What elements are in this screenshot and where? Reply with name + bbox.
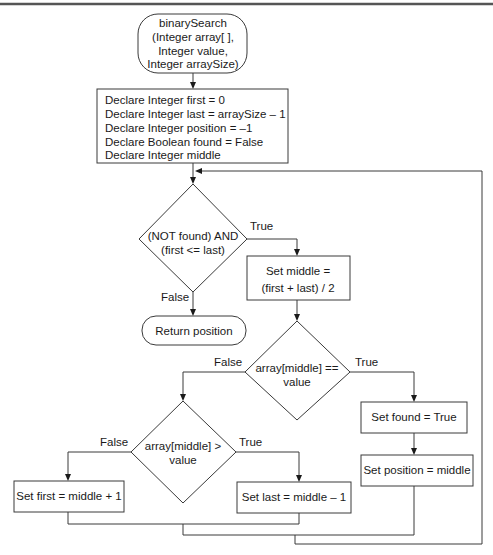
- set-found-box: Set found = True: [361, 402, 467, 433]
- connector-middle-equal: [294, 300, 300, 321]
- equal-check-decision: array[middle] == value: [245, 321, 350, 420]
- equal-false-label: False: [214, 356, 242, 368]
- set-last-label: Set last = middle – 1: [242, 491, 347, 503]
- arrowhead-icon: [190, 177, 196, 184]
- connector-greater-true: [236, 452, 302, 482]
- loop-condition-decision: (NOT found) AND (first <= last): [139, 184, 247, 292]
- connector-greater-false: [65, 452, 131, 481]
- arrowhead-icon: [296, 475, 302, 482]
- connector-start-declare: [190, 73, 196, 89]
- equal-check-line-2: value: [283, 376, 311, 388]
- return-label: Return position: [155, 325, 232, 337]
- return-terminal: Return position: [142, 316, 246, 345]
- connector-loop-true: [247, 239, 300, 256]
- arrowhead-icon: [411, 448, 417, 455]
- set-middle-box: Set middle = (first + last) / 2: [247, 256, 350, 300]
- arrowhead-icon: [294, 314, 300, 321]
- greater-false-label: False: [100, 436, 128, 448]
- loop-condition-line-1: (NOT found) AND: [148, 230, 239, 242]
- declare-line-5: Declare Integer middle: [105, 149, 221, 161]
- arrowhead-icon: [294, 249, 300, 256]
- set-middle-line-2: (first + last) / 2: [261, 282, 334, 294]
- arrowhead-icon: [411, 395, 417, 402]
- declare-line-1: Declare Integer first = 0: [105, 94, 225, 106]
- loop-false-label: False: [161, 291, 189, 303]
- set-position-label: Set position = middle: [363, 464, 470, 476]
- connector-equal-true: [350, 372, 417, 402]
- flowchart-canvas: binarySearch (Integer array[ ], Integer …: [0, 0, 493, 555]
- start-line-3: Integer value,: [158, 45, 228, 57]
- connector-equal-false: [180, 372, 245, 401]
- start-line-4: Integer arraySize): [147, 58, 239, 70]
- connector-loop-false: [190, 292, 196, 316]
- set-first-label: Set first = middle + 1: [16, 490, 121, 502]
- start-line-2: (Integer array[ ],: [152, 31, 234, 43]
- arrowhead-icon: [65, 474, 71, 481]
- greater-true-label: True: [239, 436, 262, 448]
- arrowhead-icon: [180, 394, 186, 401]
- set-first-box: Set first = middle + 1: [14, 481, 124, 512]
- equal-check-line-1: array[middle] ==: [255, 362, 338, 374]
- declare-line-4: Declare Boolean found = False: [105, 136, 263, 148]
- greater-check-line-2: value: [169, 454, 197, 466]
- declare-line-2: Declare Integer last = arraySize – 1: [105, 108, 286, 120]
- loop-true-label: True: [250, 220, 273, 232]
- set-middle-line-1: Set middle =: [266, 265, 331, 277]
- arrowhead-icon: [190, 82, 196, 89]
- connector-found-position: [411, 433, 417, 455]
- set-position-box: Set position = middle: [361, 455, 473, 486]
- start-terminal: binarySearch (Integer array[ ], Integer …: [138, 14, 247, 73]
- equal-true-label: True: [355, 356, 378, 368]
- arrowhead-icon: [195, 168, 202, 174]
- greater-check-decision: array[middle] > value: [131, 401, 236, 503]
- loop-condition-line-2: (first <= last): [161, 244, 225, 256]
- declare-line-3: Declare Integer position = –1: [105, 122, 252, 134]
- connector-declare-loop: [190, 163, 196, 184]
- greater-check-line-1: array[middle] >: [145, 440, 222, 452]
- set-found-label: Set found = True: [371, 411, 456, 423]
- start-line-1: binarySearch: [159, 17, 227, 29]
- set-last-box: Set last = middle – 1: [237, 482, 351, 513]
- declarations-box: Declare Integer first = 0 Declare Intege…: [97, 89, 288, 163]
- arrowhead-icon: [190, 309, 196, 316]
